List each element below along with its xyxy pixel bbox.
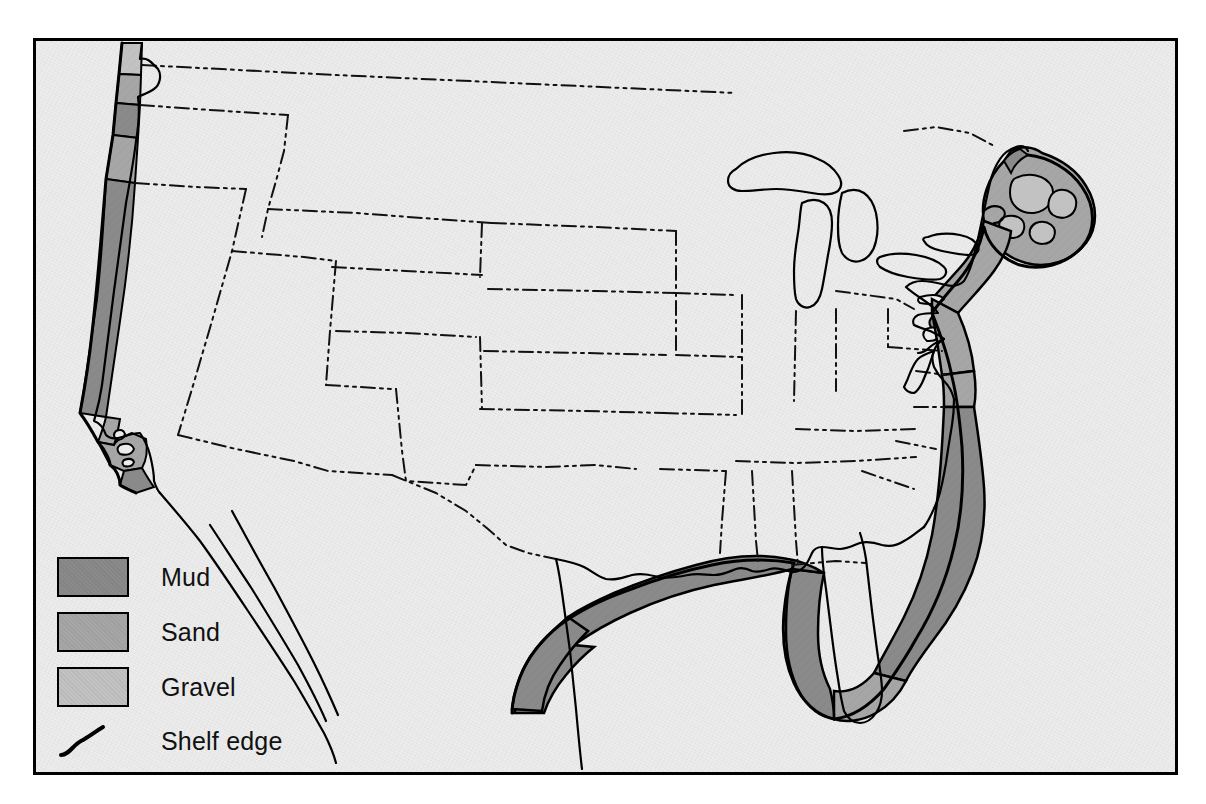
border-sd-ne bbox=[488, 289, 676, 293]
map-page: Mud Sand Gravel Shelf edge bbox=[0, 0, 1206, 804]
legend-label-shelf-edge: Shelf edge bbox=[161, 727, 283, 756]
border-canada-west bbox=[142, 65, 736, 93]
border-nc-sc bbox=[896, 441, 936, 449]
legend-item-gravel: Gravel bbox=[57, 663, 283, 711]
border-co-wy bbox=[332, 267, 482, 275]
border-ms-al bbox=[752, 471, 758, 561]
border-ky-tn bbox=[796, 429, 916, 431]
channel-island-3 bbox=[123, 459, 135, 467]
border-mt-wy bbox=[268, 209, 492, 223]
border-il-in bbox=[794, 311, 796, 401]
border-ut-az bbox=[326, 261, 336, 385]
border-nv-ut bbox=[232, 251, 336, 261]
border-tn-ms-al-ga bbox=[736, 457, 916, 463]
map-legend: Mud Sand Gravel Shelf edge bbox=[57, 553, 283, 764]
legend-swatch-sand bbox=[57, 612, 129, 652]
legend-item-sand: Sand bbox=[57, 608, 283, 656]
border-az-south bbox=[178, 435, 392, 475]
border-la-tx bbox=[720, 471, 726, 553]
border-nd-sd bbox=[492, 223, 676, 231]
border-id-mt bbox=[262, 115, 288, 237]
border-ny-pa bbox=[836, 291, 914, 309]
legend-swatch-mud bbox=[57, 557, 129, 597]
border-wa-or bbox=[140, 105, 288, 115]
legend-swatch-gravel bbox=[57, 667, 129, 707]
border-ne-ks bbox=[484, 351, 666, 355]
border-ca-nv bbox=[178, 189, 246, 435]
state-borders bbox=[135, 65, 996, 565]
lake-huron bbox=[838, 190, 878, 262]
shelf-georges-bank-patch-2 bbox=[1048, 190, 1076, 218]
east-coast-shelf bbox=[834, 147, 1095, 721]
lake-superior bbox=[728, 152, 841, 194]
border-ks-ok bbox=[480, 409, 664, 413]
legend-label-gravel: Gravel bbox=[161, 673, 236, 702]
lake-erie bbox=[877, 254, 946, 280]
channel-island-2 bbox=[118, 444, 135, 455]
legend-label-sand: Sand bbox=[161, 618, 220, 647]
lake-michigan bbox=[794, 200, 832, 308]
shelf-georges-bank-patch-1 bbox=[1010, 175, 1053, 213]
border-or-ca bbox=[135, 183, 246, 189]
border-wy-vertical bbox=[480, 223, 482, 277]
border-sc-ga bbox=[862, 471, 914, 489]
shelf-georges-bank-patch-4 bbox=[1030, 222, 1055, 244]
border-ia-mo bbox=[676, 355, 742, 357]
border-az-nm bbox=[326, 385, 396, 389]
border-co-ks bbox=[480, 337, 482, 409]
legend-item-shelf-edge: Shelf edge bbox=[57, 718, 283, 764]
border-ok-tx bbox=[476, 465, 636, 469]
border-mn-ia bbox=[676, 293, 736, 295]
shelf-edge-line-icon bbox=[57, 721, 129, 761]
border-ny-vt-nh bbox=[904, 127, 996, 147]
border-co-nm bbox=[336, 331, 476, 337]
border-nm-tx bbox=[396, 389, 476, 485]
legend-item-mud: Mud bbox=[57, 553, 283, 601]
map-frame: Mud Sand Gravel Shelf edge bbox=[33, 38, 1178, 775]
border-ar-la bbox=[660, 469, 726, 471]
legend-label-mud: Mud bbox=[161, 563, 210, 592]
border-mexico bbox=[392, 475, 556, 559]
border-mo-ar bbox=[664, 413, 736, 415]
border-al-ga bbox=[792, 471, 798, 565]
lake-ontario bbox=[923, 234, 978, 255]
